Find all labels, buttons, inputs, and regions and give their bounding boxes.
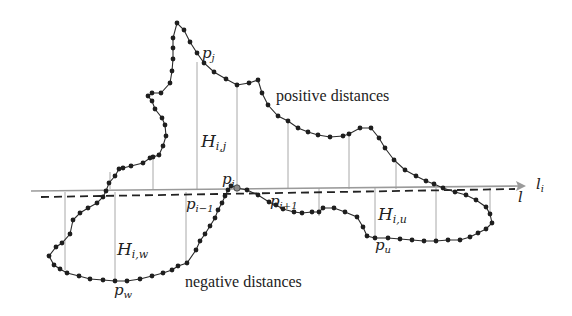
contour-point — [235, 83, 240, 88]
contour-point — [68, 232, 73, 237]
contour-point — [468, 235, 473, 240]
label-line-li: li — [536, 175, 544, 194]
contour-point — [300, 211, 305, 216]
contour-distance-diagram: pj pi pi−1 pi+1 pu pw Hi,j Hi,u Hi,w li … — [0, 0, 572, 316]
contour-point — [216, 208, 221, 213]
contour-point — [54, 245, 59, 250]
contour-point — [414, 174, 419, 179]
contour-point — [453, 190, 458, 195]
contour-point — [422, 239, 427, 244]
contour-point — [161, 144, 166, 149]
contour-point — [490, 221, 495, 226]
contour-point — [432, 182, 437, 187]
label-pj: pj — [202, 44, 215, 63]
caption-positive-distances: positive distances — [276, 87, 389, 105]
positive-perpendiculars — [110, 62, 396, 189]
contour-point — [296, 126, 301, 131]
contour-point — [88, 277, 93, 282]
contour-point — [185, 261, 190, 266]
label-pi: pi — [222, 170, 235, 189]
contour-point — [159, 91, 164, 96]
contour-point — [86, 206, 91, 211]
label-line-l: l — [518, 188, 523, 206]
contour-point — [458, 238, 463, 243]
contour-point — [176, 264, 181, 269]
contour-point — [377, 136, 382, 141]
contour-point — [129, 164, 134, 169]
label-Hiu: Hi,u — [377, 204, 407, 226]
contour-point — [321, 206, 326, 211]
contour-point — [125, 279, 130, 284]
label-pi-plus-1: pi+1 — [270, 192, 298, 211]
label-pi-minus-1: pi−1 — [186, 195, 214, 214]
contour-point — [361, 225, 366, 230]
contour-point — [355, 215, 360, 220]
contour-point — [213, 216, 218, 221]
contour-point — [316, 133, 321, 138]
contour-point — [328, 135, 333, 140]
contour-point — [71, 218, 76, 223]
contour-point — [168, 81, 173, 86]
contour-point — [220, 201, 225, 206]
contour-point — [484, 227, 489, 232]
contour-point — [107, 181, 112, 186]
contour-point — [150, 274, 155, 279]
contour-point — [446, 238, 451, 243]
label-Hij: Hi,j — [200, 131, 227, 153]
contour-point — [138, 277, 143, 282]
contour-point — [198, 239, 203, 244]
contour-point — [195, 51, 200, 56]
contour-point — [245, 188, 250, 193]
contour-point — [47, 254, 52, 259]
contour-point — [464, 193, 469, 198]
contour-point — [65, 271, 70, 276]
contour-point — [403, 168, 408, 173]
contour-point — [226, 188, 231, 193]
contour-point — [410, 238, 415, 243]
contour-point — [113, 174, 118, 179]
contour-point — [332, 206, 337, 211]
contour-point — [203, 232, 208, 237]
contour-point — [160, 116, 165, 121]
contour-point — [276, 114, 281, 119]
contour-point — [369, 126, 374, 131]
contour-point — [141, 161, 146, 166]
contour-point — [256, 78, 261, 83]
contour-point — [424, 179, 429, 184]
contour-point — [104, 189, 109, 194]
contour-point — [365, 234, 370, 239]
contour-point — [58, 267, 63, 272]
contour-point — [247, 81, 252, 86]
contour-point — [194, 248, 199, 253]
contour-point — [476, 231, 481, 236]
contour-point — [223, 194, 228, 199]
contour-point — [358, 126, 363, 131]
contour-point — [347, 132, 352, 137]
contour-point — [188, 40, 193, 45]
contour-point — [101, 195, 106, 200]
label-pw: pw — [114, 281, 133, 300]
contour-point — [266, 103, 271, 108]
contour-point — [52, 263, 57, 268]
contour-point — [150, 99, 155, 104]
contour-point — [101, 278, 106, 283]
contour-point — [434, 239, 439, 244]
contour-point — [78, 211, 83, 216]
contour-point — [488, 212, 493, 217]
contour-point — [208, 224, 213, 229]
contour-point — [317, 210, 322, 215]
contour-point — [175, 21, 180, 26]
contour-point — [286, 119, 291, 124]
contour-point — [153, 107, 158, 112]
contour-point — [170, 268, 175, 273]
contour-point — [164, 134, 169, 139]
contour-point — [260, 91, 265, 96]
contour-point — [182, 28, 187, 33]
contour-point — [170, 69, 175, 74]
contour-point — [392, 158, 397, 163]
contour-point — [157, 153, 162, 158]
contour-point — [171, 46, 176, 51]
contour-point — [171, 36, 176, 41]
contour-point — [117, 167, 122, 172]
contour-point — [441, 186, 446, 191]
